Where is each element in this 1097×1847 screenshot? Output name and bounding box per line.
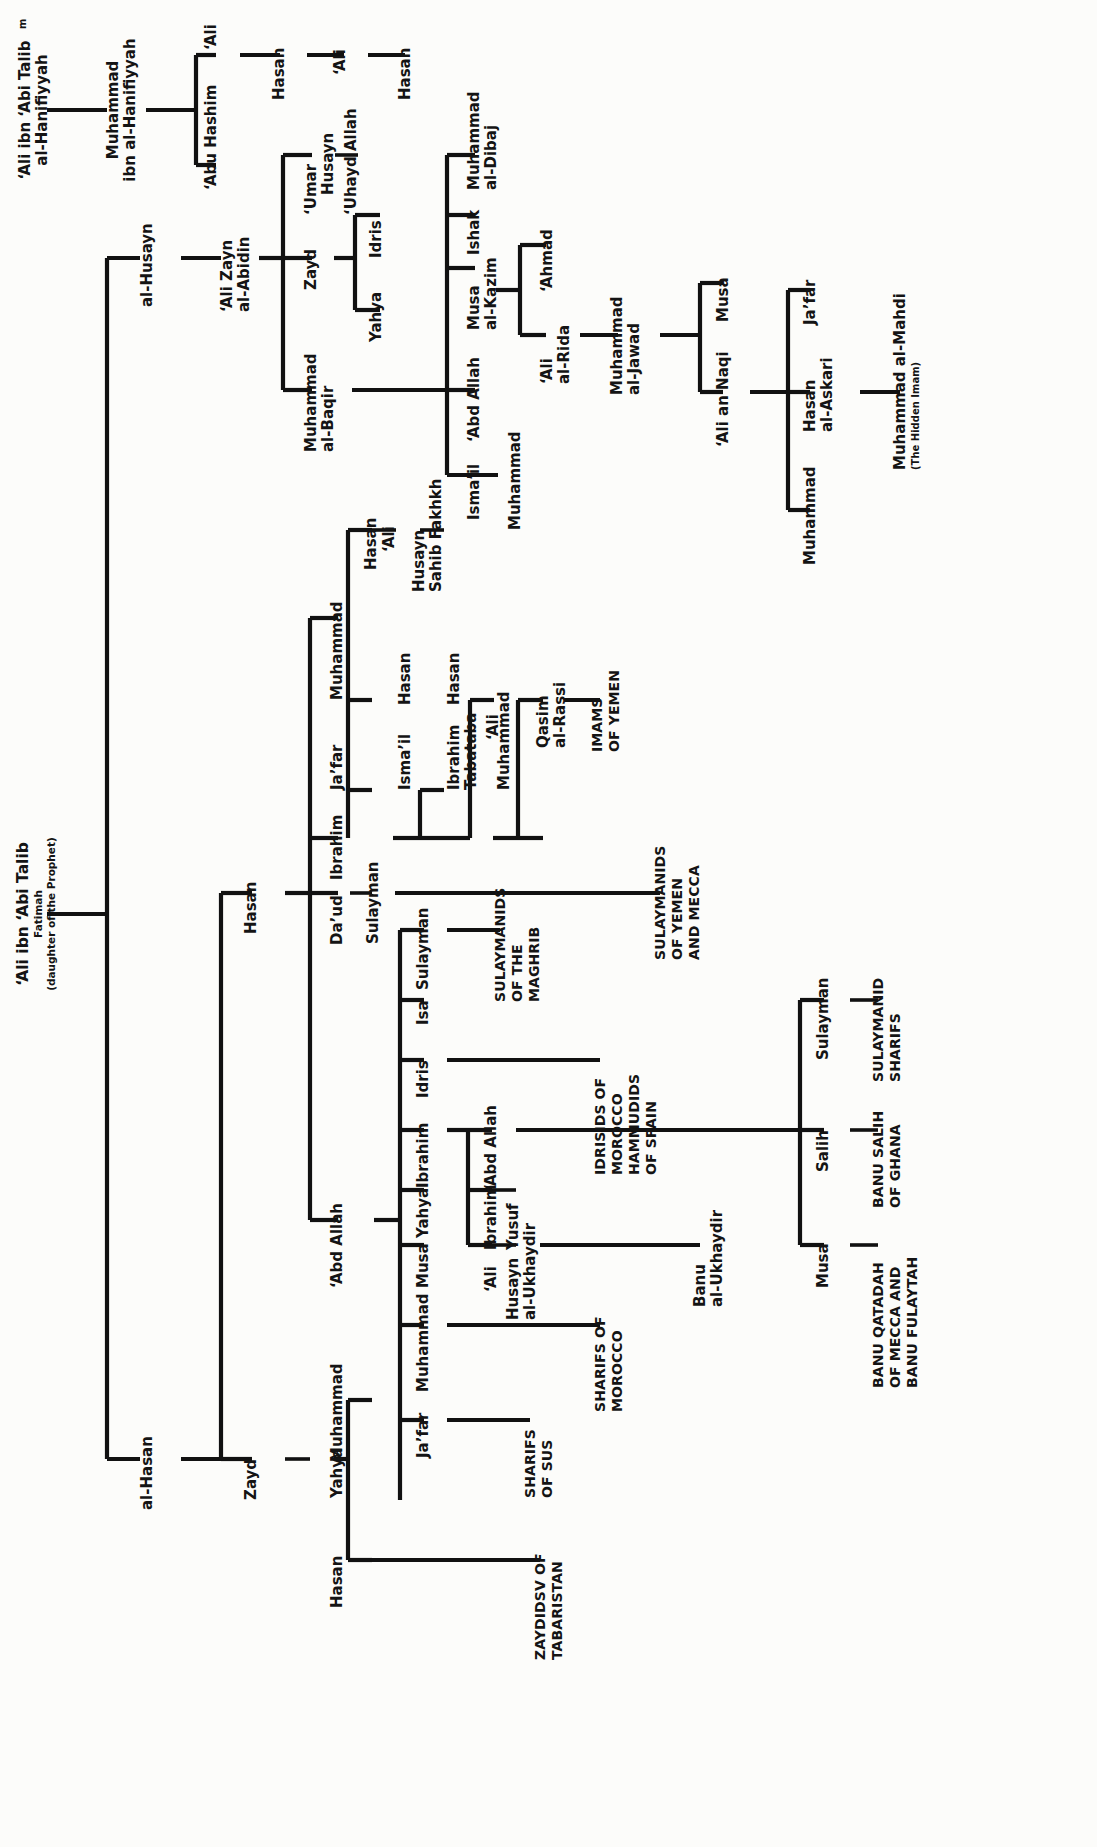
tree-connectors [47, 55, 900, 1560]
node-sulaymanid-sharifs-line2: SHARIFS [887, 1013, 903, 1082]
node-zaydids-tabaristan-line1: ZAYDIDSV OF [532, 1553, 548, 1660]
node-muhammad-baqir-line1: Muhammad [302, 353, 320, 452]
node-qasim-rassi-line1: Qasim [534, 695, 552, 748]
node-isa-hl: Isa [414, 1000, 432, 1025]
node-qasim-rassi-line2: al-Rassi [551, 682, 569, 748]
node-idrisids-line1: IDRISIDS OF [592, 1078, 608, 1175]
node-husayn-ukhaydir-line1: Husayn [504, 1258, 522, 1320]
node-muhammad-zl: Muhammad [328, 1363, 346, 1462]
node-banu-salih-line2: OF GHANA [887, 1124, 903, 1208]
family-tree-diagram: ‘Ali ibn ‘Abi Talib al-Hanifiyyah m Muha… [0, 0, 1097, 1847]
node-hasan-mid: Hasan [242, 882, 260, 934]
node-abd-allah-j: ‘Abd Allah [465, 357, 483, 442]
node-hasan-askari-line2: al-Askari [818, 357, 836, 432]
node-musa-s: Musa [814, 1243, 832, 1288]
node-ali-hanifiyyah-line2: al-Hanifiyyah [33, 54, 51, 165]
node-ali-root-line1: ‘Ali ibn ‘Abi Talib [14, 842, 32, 986]
node-ali-ib: ‘Ali [482, 1266, 500, 1292]
node-banu-qatadah-line1: BANU QATADAH [870, 1262, 886, 1388]
node-husayn-ukhaydir-line2: al-Ukhaydir [521, 1222, 539, 1320]
node-muhammad-jawad-line1: Muhammad [608, 296, 626, 395]
node-idrisids-line4: OF SPAIN [643, 1101, 659, 1175]
node-ali-hanifiyyah-line1: ‘Ali ibn ‘Abi Talib [16, 40, 34, 179]
node-muhammad-hanifiyyah-line1: Muhammad [104, 61, 122, 160]
node-muhammad-mahdi-line1: Muhammad al-Mahdi [891, 293, 909, 470]
node-husayn-fakhkh-line2: Sahib Fakhkh [427, 478, 445, 592]
node-banu-qatadah-line2: OF MECCA AND [887, 1267, 903, 1388]
node-sharifs-sus-line2: OF SUS [539, 1440, 555, 1498]
node-salih: Salih [814, 1130, 832, 1172]
node-zayd-hl: Zayd [242, 1459, 260, 1500]
node-ali-h2: ‘Ali [331, 49, 349, 75]
node-muhammad-dibaj-line2: al-Dibaj [482, 125, 500, 190]
node-muhammad-jawad-line2: al-Jawad [625, 323, 643, 395]
node-jafar-hb: Ja’far [328, 744, 346, 791]
node-sulaymanids-maghrib-line1: SULAYMANIDS [492, 887, 508, 1002]
node-abu-hashim: ‘Abu Hashim [202, 85, 220, 190]
node-ali-rida-line2: al-Rida [555, 325, 573, 384]
node-muhammad-dibaj-line1: Muhammad [465, 91, 483, 190]
node-musa-kazim-line1: Musa [465, 285, 483, 330]
node-ahmad: ‘Ahmad [538, 229, 556, 292]
node-muhammad-a: Muhammad [801, 466, 819, 565]
node-hasan-h1: Hasan [270, 48, 288, 100]
node-yahya-hl: Yahya [414, 1188, 432, 1239]
node-ibrahim-ib: Ibrahim [482, 1185, 500, 1250]
node-hasan-askari-line1: Hasan [801, 380, 819, 432]
node-jafar-a: Ja’far [801, 279, 819, 326]
node-banu-salih-line1: BANU SALIH [870, 1111, 886, 1208]
node-sulayman-hl: Sulayman [414, 908, 432, 991]
node-banu-ukhaydir-line2: al-Ukhaydir [708, 1209, 726, 1307]
node-musa-hl: Musa [414, 1243, 432, 1288]
node-ishak: Ishak [465, 209, 483, 255]
node-ali-zayn-line1: ‘Ali Zayn [218, 240, 236, 312]
node-al-hasan: al-Hasan [138, 1436, 156, 1510]
node-jafar-hl: Ja’far [414, 1412, 432, 1459]
node-musa-kazim-line2: al-Kazim [482, 257, 500, 330]
node-sulaymanids-yemen-line2: OF YEMEN [669, 878, 685, 960]
node-hasan-h2: Hasan [396, 48, 414, 100]
node-hasan-zl: Hasan [328, 1556, 346, 1608]
node-abd-allah-hl: ‘Abd Allah [328, 1203, 346, 1288]
node-ibrahim-tabataba-line2: Tabataba [462, 713, 480, 790]
node-sulaymanids-maghrib-line3: MAGHRIB [526, 927, 542, 1002]
node-ali-zayn-line2: al-Abidin [235, 236, 253, 312]
node-ali-hanifiyyah-marker: m [17, 19, 28, 29]
node-hasan-tb: Hasan [445, 653, 463, 705]
node-imams-yemen-line2: OF YEMEN [606, 670, 622, 752]
node-ismail-t: Isma’il [396, 734, 414, 790]
node-idrisids-line2: MOROCCO [609, 1093, 625, 1175]
node-banu-qatadah-line3: BANU FULAYTAH [904, 1257, 920, 1388]
node-ibrahim-hl: Ibrahim [414, 1123, 432, 1188]
node-idrisids-line3: HAMMUDIDS [626, 1074, 642, 1175]
node-sulaymanids-maghrib-line2: OF THE [509, 944, 525, 1002]
node-ali-hb: ‘Ali [380, 526, 398, 552]
node-sharifs-morocco-line2: MOROCCO [609, 1330, 625, 1412]
node-ali-naqi: ‘Ali an Naqi [714, 351, 732, 447]
node-sulayman-s: Sulayman [814, 978, 832, 1061]
node-muhammad-hanifiyyah-line2: ibn al-Hanifiyyah [121, 38, 139, 181]
node-sulaymanid-sharifs-line1: SULAYMANID [870, 978, 886, 1082]
node-muhammad-mahdi-line2: (The Hidden Imam) [910, 362, 921, 470]
node-zayd-hu: Zayd [302, 249, 320, 290]
node-husayn-u: Husayn [319, 133, 337, 195]
node-idris-hl: Idris [414, 1060, 432, 1098]
node-banu-ukhaydir-line1: Banu [691, 1264, 709, 1307]
node-imams-yemen-line1: IMAMS [589, 698, 605, 753]
node-hasan-t: Hasan [396, 653, 414, 705]
node-al-husayn: al-Husayn [138, 223, 156, 307]
node-sulayman-d: Sulayman [364, 862, 382, 945]
node-uhayd-allah: ‘Uhayd Allah [342, 108, 360, 215]
node-ismail-j: Isma’il [465, 464, 483, 520]
node-sulaymanids-yemen-line3: AND MECCA [686, 865, 702, 960]
node-muhammad-tb: Muhammad [495, 691, 513, 790]
node-daud-hb: Da’ud [328, 895, 346, 945]
node-muhammad-hl: Muhammad [414, 1293, 432, 1392]
node-zaydids-tabaristan-line2: TABARISTAN [549, 1561, 565, 1660]
node-ali-root-line2: Fatimah [32, 890, 44, 938]
node-yahya-z: Yahya [367, 292, 385, 343]
node-muhammad-hb: Muhammad [328, 601, 346, 700]
node-sulaymanids-yemen-line1: SULAYMANIDS [652, 845, 668, 960]
node-umar: ‘Umar [302, 163, 320, 215]
node-musa-n: Musa [714, 277, 732, 322]
